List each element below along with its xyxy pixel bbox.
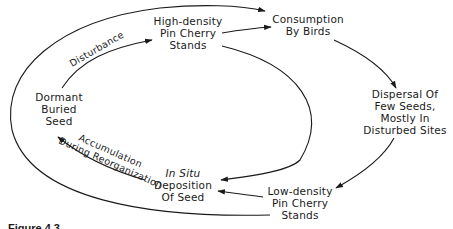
node-line: Pin Cherry — [152, 27, 224, 39]
node-in-situ-deposition: In Situ Deposition Of Seed — [152, 167, 214, 203]
node-line: Low-density — [264, 185, 336, 197]
node-line: Buried — [28, 103, 90, 115]
cycle-diagram: Disturbance Accumulation During Reorgani… — [0, 0, 453, 229]
node-high-density-stands: High-density Pin Cherry Stands — [152, 15, 224, 51]
node-line: Pin Cherry — [264, 197, 336, 209]
node-line: Dispersal Of — [360, 88, 450, 100]
node-consumption-by-birds: Consumption By Birds — [268, 13, 348, 37]
high-to-consumption-arrow — [222, 27, 271, 33]
dispersal-to-low-arrow — [336, 138, 394, 188]
node-line: Deposition — [152, 179, 214, 191]
during-reorganization-label: During Reorganization — [57, 135, 164, 191]
low-to-insitu-arrow — [218, 191, 263, 197]
node-line: Stands — [264, 209, 336, 221]
consumption-to-dispersal-arrow — [334, 40, 396, 88]
node-dispersal: Dispersal Of Few Seeds, Mostly In Distur… — [360, 88, 450, 136]
node-line: By Birds — [268, 25, 348, 37]
node-line: Dormant — [28, 91, 90, 103]
node-dormant-buried-seed: Dormant Buried Seed — [28, 91, 90, 127]
node-low-density-stands: Low-density Pin Cherry Stands — [264, 185, 336, 221]
inner-loop-arrow — [221, 46, 311, 180]
figure-caption: Figure 4.3. — [8, 222, 63, 229]
node-line: Of Seed — [152, 191, 214, 203]
node-line: Mostly In — [360, 112, 450, 124]
node-line: Consumption — [268, 13, 348, 25]
node-line: Few Seeds, — [360, 100, 450, 112]
node-line: In Situ — [152, 167, 214, 179]
node-line: Disturbed Sites — [360, 124, 450, 136]
node-line: Seed — [28, 115, 90, 127]
node-line: Stands — [152, 39, 224, 51]
node-line: High-density — [152, 15, 224, 27]
